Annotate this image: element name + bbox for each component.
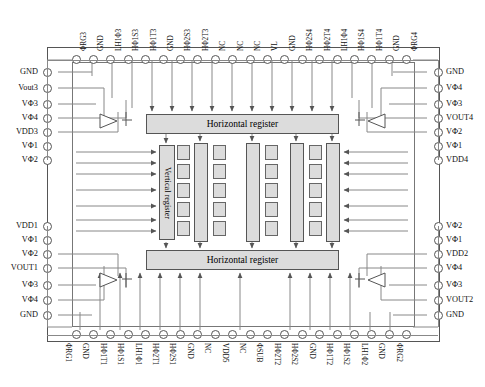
pin-label-bottom-7: GND	[186, 343, 195, 359]
bottom-pin-spine	[47, 335, 438, 336]
pin-label-left-12: VΦ4	[0, 295, 38, 304]
pin-label-left-6: VΦ2	[0, 155, 38, 164]
pin-label-top-10: NC	[253, 41, 262, 51]
pin-label-bottom-4: LH1Φ1	[134, 343, 143, 365]
array-cell	[265, 183, 278, 198]
pin-label-top-7: HΦ2T3	[201, 29, 210, 51]
vertical-register: Vertical register	[159, 145, 175, 240]
array-strip	[246, 143, 260, 242]
array-strip	[194, 143, 208, 242]
pin-label-bottom-1: GND	[81, 343, 90, 359]
pin-label-right-9: VDD2	[446, 249, 468, 258]
array-cell	[309, 145, 322, 160]
array-cell	[213, 221, 226, 236]
array-cell	[177, 202, 190, 217]
right-pin-spine	[438, 226, 439, 327]
pin-label-bottom-6: HΦ2S1	[168, 343, 177, 365]
left-pin-spine	[47, 226, 48, 327]
array-cell	[177, 145, 190, 160]
vertical-register-label: Vertical register	[163, 166, 172, 218]
pin-label-top-0: ΦRG3	[79, 32, 88, 51]
pin-label-left-7: VDD1	[0, 221, 38, 230]
pin-label-bottom-14: GND	[308, 343, 317, 359]
array-cell	[213, 183, 226, 198]
pin-label-bottom-18: GND	[377, 343, 386, 359]
pin-label-right-6: VDD4	[446, 155, 468, 164]
array-cell	[265, 202, 278, 217]
pin-label-bottom-11: ΦSUB	[255, 343, 264, 362]
pin-label-top-12: GND	[288, 35, 297, 51]
array-cell	[309, 202, 322, 217]
horizontal-register-top-label: Horizontal register	[207, 119, 279, 129]
die-outline	[72, 62, 415, 327]
pin-label-top-13: HΦ2S4	[305, 29, 314, 51]
pin-label-top-8: NC	[218, 41, 227, 51]
pin-label-top-4: HΦ1T3	[149, 29, 158, 51]
pin-label-bottom-10: NC	[238, 343, 247, 353]
pin-label-left-8: VΦ1	[0, 235, 38, 244]
horizontal-register-bottom-label: Horizontal register	[207, 255, 279, 265]
pin-label-bottom-19: ΦRG2	[395, 343, 404, 362]
pin-label-left-9: VΦ2	[0, 249, 38, 258]
pin-label-top-16: HΦ1S4	[357, 29, 366, 51]
pin-label-right-2: VΦ3	[446, 99, 462, 108]
pin-label-right-4: VΦ2	[446, 127, 462, 136]
pin-label-bottom-13: HΦ2S2	[290, 343, 299, 365]
array-cell	[309, 183, 322, 198]
left-pin-spine	[47, 60, 48, 160]
top-pin-spine	[47, 60, 438, 61]
pin-label-left-1: Vout3	[0, 83, 38, 92]
pin-label-right-0: GND	[446, 67, 464, 76]
pin-label-top-18: GND	[392, 35, 401, 51]
pin-label-top-3: HΦ1S3	[131, 29, 140, 51]
array-cell	[213, 145, 226, 160]
array-cell	[309, 221, 322, 236]
pin-label-bottom-0: ΦRG1	[64, 343, 73, 362]
pin-label-bottom-16: HΦ1S2	[342, 343, 351, 365]
pin-label-right-12: VOUT2	[446, 295, 473, 304]
array-cell	[265, 221, 278, 236]
array-strip	[290, 143, 304, 242]
array-cell	[177, 183, 190, 198]
pin-label-top-15: LH1Φ4	[340, 29, 349, 51]
pin-label-bottom-9: VDD5	[221, 343, 230, 362]
horizontal-register-top: Horizontal register	[146, 114, 339, 134]
pin-label-left-2: VΦ3	[0, 99, 38, 108]
pin-label-top-11: VL	[270, 41, 279, 51]
pin-label-top-9: NC	[236, 41, 245, 51]
pin-label-bottom-15: HΦ1T2	[325, 343, 334, 365]
pin-label-bottom-8: NC	[203, 343, 212, 353]
pin-label-right-1: VΦ4	[446, 83, 462, 92]
pin-label-top-17: HΦ1T4	[375, 29, 384, 51]
right-pin-spine	[438, 60, 439, 160]
pin-label-top-19: ΦRG4	[410, 32, 419, 51]
pin-label-right-11: VΦ3	[446, 280, 462, 289]
ccd-pinout-diagram: Horizontal register Horizontal register …	[0, 0, 485, 387]
pin-label-right-3: VOUT4	[446, 113, 473, 122]
pin-label-right-5: VΦ1	[446, 141, 462, 150]
pin-label-right-13: GND	[446, 310, 464, 319]
pin-label-top-1: GND	[96, 35, 105, 51]
array-cell	[177, 221, 190, 236]
pin-label-top-5: GND	[166, 35, 175, 51]
pin-label-bottom-5: HΦ2T1	[151, 343, 160, 365]
array-strip	[326, 143, 340, 242]
pin-label-left-13: GND	[0, 310, 38, 319]
pin-label-left-11: VΦ3	[0, 280, 38, 289]
pin-label-left-4: VDD3	[0, 127, 38, 136]
array-cell	[213, 202, 226, 217]
horizontal-register-bottom: Horizontal register	[146, 250, 339, 270]
pin-label-right-8: VΦ1	[446, 235, 462, 244]
pin-label-top-2: LH1Φ3	[114, 29, 123, 51]
pin-label-bottom-2: HΦ1T1	[99, 343, 108, 365]
pin-label-top-14: HΦ2T4	[323, 29, 332, 51]
array-cell	[265, 164, 278, 179]
pin-label-right-7: VΦ2	[446, 221, 462, 230]
array-cell	[309, 164, 322, 179]
pin-label-bottom-3: HΦ1S1	[116, 343, 125, 365]
pin-label-left-5: VΦ1	[0, 141, 38, 150]
array-cell	[177, 164, 190, 179]
array-cell	[265, 145, 278, 160]
pin-label-left-0: GND	[0, 67, 38, 76]
pin-label-right-10: VΦ4	[446, 263, 462, 272]
